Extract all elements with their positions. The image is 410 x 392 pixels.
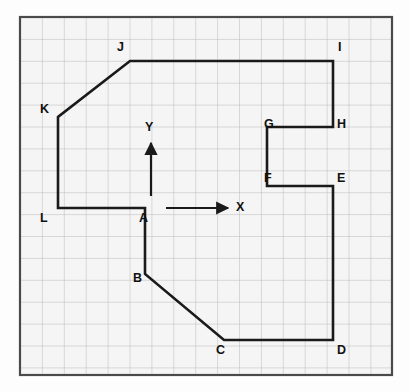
drawing-surface xyxy=(0,0,410,392)
vertex-label-h: H xyxy=(337,118,346,131)
vertex-label-c: C xyxy=(216,344,225,357)
vertex-label-f: F xyxy=(264,172,272,185)
vertex-label-j: J xyxy=(117,41,124,54)
vertex-label-g: G xyxy=(264,118,274,131)
vertex-label-d: D xyxy=(337,344,346,357)
vertex-label-l: L xyxy=(40,212,48,225)
vertex-label-a: A xyxy=(139,212,148,225)
vertex-label-b: B xyxy=(133,272,142,285)
figure-canvas: X Y A B C D E F G H I J K L xyxy=(0,0,410,392)
grid-lines xyxy=(20,17,392,375)
vertex-label-e: E xyxy=(337,172,345,185)
vertex-label-i: I xyxy=(338,41,341,54)
x-axis-label: X xyxy=(236,201,244,214)
vertex-label-k: K xyxy=(40,103,49,116)
y-axis-label: Y xyxy=(145,121,153,134)
